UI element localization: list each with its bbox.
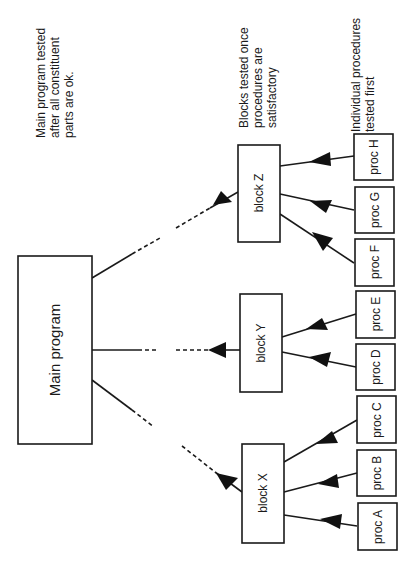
proc-d-node: proc D bbox=[356, 344, 395, 390]
block-z-label: block Z bbox=[252, 174, 266, 213]
note-main-line-3: parts are ok. bbox=[62, 71, 76, 138]
proc-e-label: proc E bbox=[369, 297, 383, 332]
proc-c-label: proc C bbox=[370, 402, 384, 438]
proc-a-node: proc A bbox=[358, 503, 397, 550]
block-y-label: block Y bbox=[254, 323, 268, 362]
note-blocks: Blocks tested once procedures are satisf… bbox=[237, 27, 279, 128]
main-to-block-y-connector bbox=[92, 342, 240, 358]
block-y-node: block Y bbox=[240, 294, 282, 392]
note-procedures: Individual procedures tested first bbox=[349, 18, 377, 132]
main-program-node: Main program bbox=[18, 256, 92, 444]
note-blocks-line-3: satisfactory bbox=[265, 67, 279, 128]
note-blocks-line-2: procedures are bbox=[251, 47, 265, 128]
arrowhead-icon bbox=[213, 191, 232, 205]
arrowhead-icon bbox=[208, 342, 226, 358]
block-z-node: block Z bbox=[238, 145, 280, 242]
proc-a-label: proc A bbox=[371, 510, 385, 544]
note-procs-line-2: tested first bbox=[363, 76, 377, 132]
main-program-label: Main program bbox=[46, 304, 63, 397]
block-x-node: block X bbox=[242, 444, 284, 543]
arrowhead-icon bbox=[309, 352, 331, 367]
note-blocks-line-1: Blocks tested once bbox=[237, 27, 251, 128]
proc-f-node: proc F bbox=[355, 239, 394, 286]
proc-h-node: proc H bbox=[354, 134, 393, 180]
arrowhead-icon bbox=[312, 232, 333, 251]
proc-g-label: proc G bbox=[368, 192, 382, 228]
note-procs-line-1: Individual procedures bbox=[349, 18, 363, 132]
arrowhead-icon bbox=[318, 474, 339, 488]
proc-b-label: proc B bbox=[370, 456, 384, 491]
procs-to-block-y-connectors bbox=[282, 314, 356, 367]
main-to-block-x-connector bbox=[92, 380, 242, 492]
note-main-program: Main program tested after all constituen… bbox=[34, 28, 76, 138]
arrowhead-icon bbox=[309, 152, 331, 166]
proc-e-node: proc E bbox=[356, 291, 395, 338]
arrowhead-icon bbox=[306, 318, 328, 330]
proc-d-label: proc D bbox=[369, 349, 383, 385]
procs-to-block-z-connectors bbox=[280, 152, 354, 263]
proc-c-node: proc C bbox=[357, 396, 396, 443]
proc-g-node: proc G bbox=[355, 187, 394, 233]
proc-h-label: proc H bbox=[367, 139, 381, 174]
proc-f-label: proc F bbox=[368, 245, 382, 279]
testing-hierarchy-diagram: Main program tested after all constituen… bbox=[0, 0, 412, 562]
main-to-block-z-connector bbox=[92, 191, 238, 278]
note-main-line-1: Main program tested bbox=[34, 28, 48, 138]
block-x-label: block X bbox=[256, 473, 270, 512]
note-main-line-2: after all constituent bbox=[48, 37, 62, 138]
procs-to-block-x-connectors bbox=[284, 420, 357, 529]
arrowhead-icon bbox=[310, 200, 332, 213]
proc-b-node: proc B bbox=[357, 450, 396, 496]
